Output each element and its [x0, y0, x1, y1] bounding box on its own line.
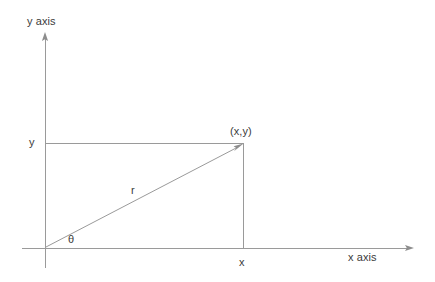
arrow-up-right-icon	[234, 143, 244, 151]
angle-theta-label: θ	[68, 233, 74, 245]
x-axis-title: x axis	[348, 251, 377, 263]
diagram-canvas	[0, 0, 435, 282]
radius-label: r	[131, 184, 135, 196]
polar-coordinate-diagram: y axis y (x,y) r θ x x axis	[0, 0, 435, 282]
x-value-label: x	[239, 256, 245, 268]
point-coordinates-label: (x,y)	[230, 125, 252, 137]
y-axis-title: y axis	[27, 15, 56, 27]
y-value-label: y	[29, 136, 35, 148]
radius-vector-line	[46, 147, 238, 247]
